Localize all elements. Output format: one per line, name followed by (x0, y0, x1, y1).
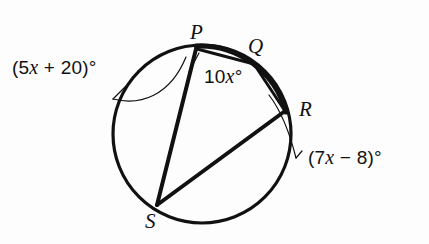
arc-sp-suffix: + 20)° (38, 57, 96, 78)
arc-sp-prefix: (5 (12, 57, 29, 78)
arc-sp-variable: x (29, 56, 38, 78)
chord-qr (254, 64, 285, 111)
point-label-q: Q (248, 36, 263, 57)
arc-qr-variable: x (325, 146, 334, 168)
circle-diagram-canvas (0, 0, 429, 244)
arc-measure-label-qr: (7x − 8)° (308, 147, 382, 167)
arc-measure-label-pq: 10x° (204, 66, 242, 86)
arc-pq-variable: x (226, 65, 235, 87)
arc-pq-suffix: ° (235, 66, 243, 87)
arc-pq-prefix: 10 (204, 66, 226, 87)
arc-qr-suffix: − 8)° (334, 147, 381, 168)
point-label-p: P (190, 22, 203, 43)
point-label-s: S (145, 211, 156, 232)
arc-measure-label-sp: (5x + 20)° (12, 57, 97, 77)
point-label-r: R (299, 99, 312, 120)
geometry-figure: P Q R S (5x + 20)° 10x° (7x − 8)° (0, 0, 429, 244)
arc-qr-prefix: (7 (308, 147, 325, 168)
leader-tick-qr (296, 151, 302, 158)
